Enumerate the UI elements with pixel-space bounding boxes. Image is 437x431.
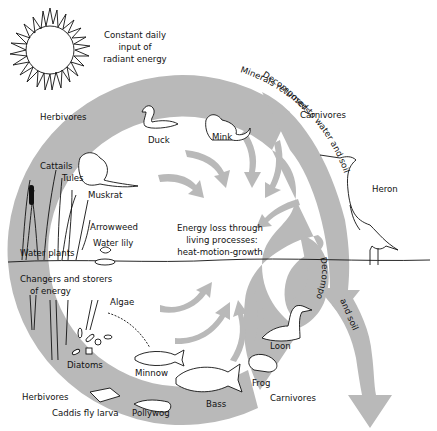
label-loon: Loon: [270, 341, 291, 351]
label-minnow: Minnow: [135, 368, 168, 378]
muskrat-icon: [79, 153, 138, 187]
label-herbivores-top: Herbivores: [40, 112, 87, 122]
label-producers-2: of energy: [30, 286, 71, 296]
svg-text:Constant daily: Constant daily: [104, 30, 166, 40]
minnow-icon: [135, 350, 184, 366]
label-water-lily: Water lily: [93, 238, 133, 248]
svg-text:input of: input of: [118, 42, 152, 52]
label-muskrat: Muskrat: [88, 190, 123, 200]
label-carnivores-bottom: Carnivores: [270, 393, 316, 403]
water-surface-line: [8, 259, 430, 262]
center-energy-loss-text: Energy loss through living processes: he…: [177, 223, 263, 257]
label-pollywog: Pollywog: [132, 408, 170, 418]
label-caddis-fly-larva: Caddis fly larva: [52, 408, 119, 418]
label-bass: Bass: [206, 399, 227, 409]
label-cattails: Cattails: [40, 161, 73, 171]
label-tules: Tules: [61, 173, 84, 183]
algae-icon: [108, 313, 150, 348]
label-frog: Frog: [252, 378, 270, 388]
svg-text:Energy loss through: Energy loss through: [177, 223, 263, 233]
sun-icon: [10, 8, 90, 90]
water-lily-icon: [95, 247, 115, 265]
svg-text:radiant energy: radiant energy: [103, 54, 166, 64]
svg-text:living processes:: living processes:: [186, 235, 258, 245]
label-duck: Duck: [148, 135, 170, 145]
svg-text:heat-motion-growth: heat-motion-growth: [177, 247, 263, 257]
energy-flow-diagram: Constant daily input of radiant energy E…: [0, 0, 437, 431]
label-arrowweed: Arrowweed: [90, 222, 138, 232]
label-heron: Heron: [372, 184, 398, 194]
cattail-head-icon: [29, 185, 34, 205]
label-water-plants: Water plants: [20, 248, 75, 258]
label-mink: Mink: [212, 132, 232, 142]
label-diatoms: Diatoms: [67, 360, 103, 370]
label-producers: Changers and storers: [20, 274, 113, 284]
label-herbivores-bottom: Herbivores: [22, 392, 69, 402]
bass-icon: [176, 364, 242, 392]
label-algae: Algae: [110, 297, 134, 307]
sun-caption: Constant daily input of radiant energy: [103, 30, 166, 64]
